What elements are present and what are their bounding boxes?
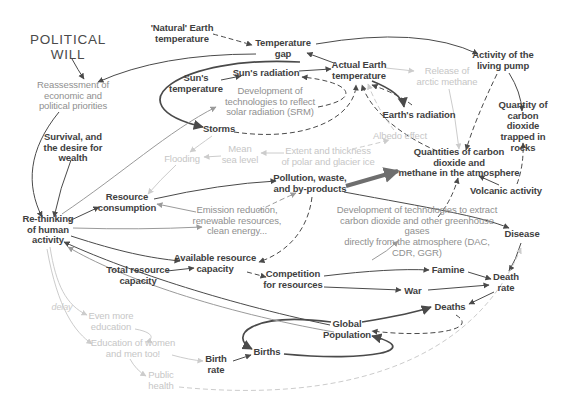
suns-radiation-label: Sun's radiation — [233, 68, 300, 79]
even-more-education-label: Even more education — [88, 311, 133, 332]
natural-earth-temperature-label: 'Natural' Earth temperature — [151, 23, 214, 44]
public-health-label: Public health — [148, 370, 173, 391]
earths-radiation-label: Earth's radiation — [383, 110, 456, 121]
global-population-label: Global Population — [323, 319, 371, 340]
war-label: War — [404, 286, 421, 297]
resource-consumption-label: Resource consumption — [98, 192, 157, 213]
survival-desire-wealth-label: Survival, and the desire for wealth — [44, 132, 103, 164]
emission-reduction-label: Emission reduction, renewable resources,… — [193, 205, 282, 237]
diagram-nodes-layer: POLITICAL WILL'Natural' Earth temperatur… — [0, 0, 583, 411]
mean-sea-level-label: Mean sea level — [222, 144, 259, 165]
co2-methane-atmosphere-label: Quantities of carbon dioxide and methane… — [397, 147, 521, 179]
available-resource-capacity-label: Available resource capacity — [174, 253, 256, 274]
disease-label: Disease — [504, 229, 539, 240]
delay-note-label: delay — [51, 302, 72, 312]
albedo-effect-label: Albedo effect — [373, 131, 427, 142]
activity-of-living-pump-label: Activity of the living pump — [472, 50, 533, 71]
total-resource-capacity-label: Total resource capacity — [106, 265, 169, 286]
srm-technologies-label: Development of technologies to reflect s… — [225, 86, 315, 118]
famine-label: Famine — [432, 265, 465, 276]
actual-earth-temperature-label: Actual Earth temperature — [332, 60, 387, 81]
polar-glacier-ice-label: Extent and thickness of polar and glacie… — [281, 146, 374, 167]
competition-for-resources-label: Competition for resources — [263, 269, 322, 290]
birth-rate-label: Birth rate — [205, 354, 227, 375]
flooding-label: Flooding — [164, 154, 200, 165]
reassessment-priorities-label: Reassessment of economic and political p… — [37, 80, 109, 112]
births-label: Births — [254, 347, 281, 358]
suns-temperature-label: Sun's temperature — [169, 73, 223, 94]
political-will-label: POLITICAL WILL — [30, 32, 106, 62]
dac-technologies-label: Development of technologies to extract c… — [334, 205, 500, 258]
causal-loop-diagram: POLITICAL WILL'Natural' Earth temperatur… — [0, 0, 583, 411]
education-of-women-label: Education of women and men too! — [91, 338, 175, 359]
temperature-gap-label: Temperature gap — [255, 38, 311, 59]
release-of-arctic-methane-label: Release of arctic methane — [417, 66, 478, 87]
deaths-label: Deaths — [434, 302, 465, 313]
storms-label: Storms — [203, 124, 235, 135]
death-rate-label: Death rate — [493, 272, 519, 293]
pollution-waste-label: Pollution, waste, and by-products — [273, 173, 346, 194]
volcanic-activity-label: Volcanic activity — [470, 186, 542, 197]
rethinking-human-activity-label: Re-thinking of human activity — [22, 214, 73, 246]
